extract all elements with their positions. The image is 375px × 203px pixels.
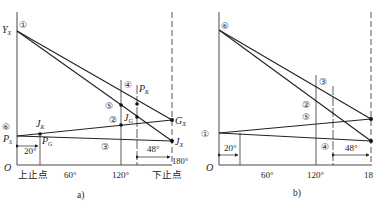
tick-60-b: 60° xyxy=(261,170,274,180)
line-yx-gx xyxy=(17,31,172,120)
circled-4-a: ④ xyxy=(124,80,132,90)
label-jx: JX xyxy=(175,136,183,148)
line-b-upper-1 xyxy=(219,30,371,119)
label-gx: GX xyxy=(175,115,186,127)
tick-bdc-a: 下止点 xyxy=(152,169,182,180)
label-ps: PS xyxy=(2,133,12,145)
circled-2-b: ② xyxy=(302,100,310,110)
point-2 xyxy=(119,123,123,127)
point-jx xyxy=(170,139,174,143)
caption-a: a) xyxy=(77,190,84,201)
circled-5-a: ⑤ xyxy=(105,101,113,111)
circled-2-a: ② xyxy=(109,115,117,125)
dim-20-label-a: 20° xyxy=(24,146,37,156)
tick-tdc-a: 上止点 xyxy=(18,169,48,180)
circled-1-b: ① xyxy=(201,129,209,139)
origin-a: O xyxy=(4,162,11,173)
circled-4-b: ④ xyxy=(321,142,329,152)
panel-b: ⑥ ① ③ ② ⑤ ④ 20° 48° O 60° 120° 18 b) xyxy=(201,12,374,199)
tick-120-b: 120° xyxy=(307,170,325,180)
line-b-lower-1 xyxy=(219,119,371,133)
label-jk: JK xyxy=(36,118,45,130)
point-gx xyxy=(170,118,174,122)
circled-3-b: ③ xyxy=(319,77,327,87)
circled-5-b: ⑤ xyxy=(302,112,310,122)
panel-a: YX ① ⑥ PS JK PG ④ PK ⑤ ② JG GX JX ③ 20° … xyxy=(2,12,188,201)
tick-180-a: 180° xyxy=(172,156,188,166)
point-b-upper xyxy=(369,117,373,121)
valve-timing-diagram: YX ① ⑥ PS JK PG ④ PK ⑤ ② JG GX JX ③ 20° … xyxy=(0,0,375,203)
line-b-upper-2 xyxy=(219,30,371,141)
dim-20-label-b: 20° xyxy=(224,143,237,153)
point-b-lower xyxy=(369,139,373,143)
dim-48-label-b: 48° xyxy=(345,143,358,153)
origin-b: O xyxy=(206,162,213,173)
point-jg xyxy=(135,115,139,119)
circled-1-a: ① xyxy=(19,20,27,30)
line-b-lower-2 xyxy=(219,133,371,141)
label-jg: JG xyxy=(124,112,133,124)
caption-b: b) xyxy=(293,188,301,199)
tick-180-b: 18 xyxy=(364,170,374,180)
point-pk xyxy=(135,102,139,106)
circled-6-a: ⑥ xyxy=(2,122,10,132)
label-pk: PK xyxy=(138,83,150,95)
dim-48-label-a: 48° xyxy=(147,144,160,154)
tick-120-a: 120° xyxy=(112,170,130,180)
tick-60-a: 60° xyxy=(64,170,77,180)
point-5 xyxy=(119,103,123,107)
label-yx: YX xyxy=(2,24,12,36)
circled-3-a: ③ xyxy=(101,142,109,152)
circled-6-b: ⑥ xyxy=(221,21,229,31)
